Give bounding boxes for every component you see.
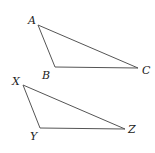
vertex-label-z: Z — [127, 123, 136, 136]
vertex-label-y: Y — [30, 130, 39, 143]
vertex-label-x: X — [11, 75, 21, 88]
triangle-abc — [38, 25, 138, 68]
triangle-xyz — [23, 85, 125, 129]
vertex-label-a: A — [27, 14, 36, 27]
vertex-label-b: B — [41, 69, 50, 82]
diagram-svg: A B C X Y Z — [0, 0, 155, 153]
vertex-label-c: C — [142, 64, 151, 77]
triangle-diagram: A B C X Y Z — [0, 0, 155, 153]
